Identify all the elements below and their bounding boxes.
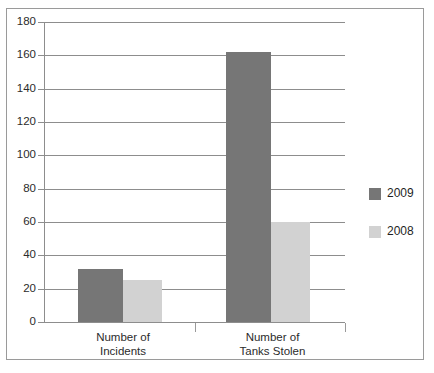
y-axis-tick-label: 20 [6, 283, 36, 295]
category-label-line1: Number of [205, 331, 340, 345]
legend-swatch-2009 [369, 188, 381, 200]
category-label-tanks-stolen: Number of Tanks Stolen [205, 331, 340, 358]
y-axis-tick-label: 0 [6, 316, 36, 328]
legend-label-2009: 2009 [387, 186, 414, 201]
category-label-line2: Tanks Stolen [205, 345, 340, 359]
y-axis-tick-label: 160 [6, 49, 36, 61]
gridline-160 [44, 55, 345, 56]
y-axis-tick-label: 180 [6, 16, 36, 28]
category-label-incidents: Number of Incidents [58, 331, 188, 358]
y-axis-tick-label: 140 [6, 83, 36, 95]
bar-2008-tanks-stolen [271, 222, 310, 322]
chart-legend: 2009 2008 [369, 186, 429, 262]
gridline-80 [44, 189, 345, 190]
bar-2009-incidents [78, 269, 123, 322]
legend-item-2008[interactable]: 2008 [369, 224, 429, 262]
gridline-120 [44, 122, 345, 123]
legend-swatch-2008 [369, 226, 381, 238]
legend-item-2009[interactable]: 2009 [369, 186, 429, 224]
category-label-line1: Number of [58, 331, 188, 345]
y-axis-tick-label: 120 [6, 116, 36, 128]
category-axis-tick [195, 323, 196, 332]
y-axis-tick-label: 100 [6, 149, 36, 161]
category-label-line2: Incidents [58, 345, 188, 359]
legend-label-2008: 2008 [387, 224, 414, 239]
gridline-140 [44, 89, 345, 90]
y-axis-tick-label: 40 [6, 249, 36, 261]
bar-2009-tanks-stolen [226, 52, 271, 322]
gridline-100 [44, 155, 345, 156]
bar-chart-figure: 180 160 140 120 100 80 60 40 20 0 [0, 0, 434, 373]
y-axis-tick-label: 80 [6, 183, 36, 195]
gridline-180 [44, 22, 345, 23]
y-axis-label-column: 180 160 140 120 100 80 60 40 20 0 [4, 0, 36, 373]
plot-area [44, 22, 345, 322]
category-axis-tick [345, 323, 346, 332]
bar-2008-incidents [123, 280, 162, 322]
y-axis-tick-label: 60 [6, 216, 36, 228]
